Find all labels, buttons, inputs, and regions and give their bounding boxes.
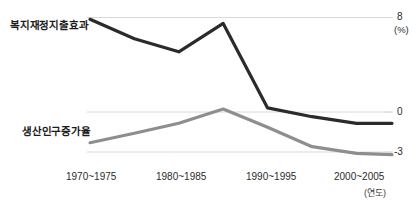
x-axis-tick-1990-1995: 1990~1995 [246,171,296,182]
series-line-population [90,109,392,155]
x-axis-tick-2000-2005: 2000~2005 [334,171,384,182]
series-label-population: 생산인구증가율 [22,123,91,138]
welfare-expenditure-line [90,19,392,123]
y-axis-tick-minus-3: -3 [394,146,403,157]
y-axis-tick-marks [385,18,393,153]
series-line-welfare [90,19,392,123]
y-axis-unit: (%) [394,24,409,35]
x-axis-tick-1970-1975: 1970~1975 [66,171,116,182]
y-axis-tick-8: 8 [397,11,403,22]
population-growth-line [90,109,392,155]
series-label-welfare: 복지재정지출효과 [10,17,88,32]
x-axis-unit: (연도) [364,186,386,199]
chart-container: 복지재정지출효과 생산인구증가율 8 (%) 0 -3 1970~1975 19… [0,0,420,207]
plot-area: 복지재정지출효과 생산인구증가율 8 (%) 0 -3 1970~1975 19… [0,0,420,207]
y-axis-tick-0: 0 [397,106,403,117]
x-axis-tick-1980-1985: 1980~1985 [156,171,206,182]
